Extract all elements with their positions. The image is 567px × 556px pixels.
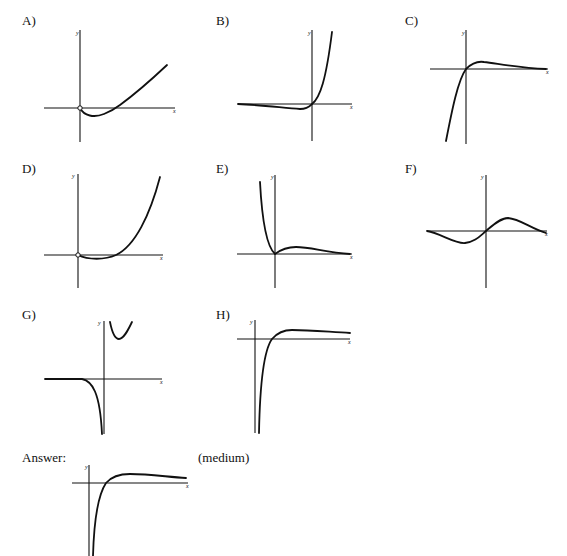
- svg-text:x: x: [159, 379, 163, 385]
- svg-text:y: y: [84, 464, 88, 470]
- answer-graph: y x: [72, 464, 189, 556]
- svg-text:x: x: [347, 339, 351, 345]
- svg-text:x: x: [349, 254, 353, 260]
- graph-b: y x: [238, 30, 353, 141]
- graph-panels: y x y x y x y x y x y x: [0, 0, 567, 556]
- svg-text:x: x: [172, 108, 176, 114]
- svg-text:y: y: [249, 319, 253, 325]
- svg-text:y: y: [75, 30, 79, 36]
- graph-f: y x: [427, 174, 548, 288]
- graph-c: y x: [430, 30, 549, 144]
- graph-a: y x: [44, 30, 176, 142]
- svg-text:x: x: [545, 69, 549, 75]
- svg-text:x: x: [185, 483, 189, 489]
- svg-text:y: y: [71, 173, 75, 179]
- graph-d: y x: [44, 173, 163, 288]
- graph-e: y x: [237, 174, 353, 288]
- graph-h: y x: [237, 319, 351, 433]
- svg-text:y: y: [307, 30, 311, 36]
- svg-text:y: y: [480, 174, 484, 180]
- svg-text:x: x: [349, 104, 353, 110]
- svg-text:y: y: [270, 174, 274, 180]
- svg-text:x: x: [159, 255, 163, 261]
- svg-text:y: y: [97, 320, 101, 326]
- svg-text:y: y: [461, 30, 465, 36]
- graph-g: y x: [45, 320, 163, 434]
